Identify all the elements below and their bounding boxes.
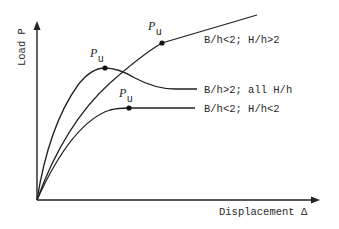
svg-text:u: u xyxy=(98,53,104,64)
svg-text:u: u xyxy=(127,93,133,104)
pu-point-curve-1 xyxy=(159,40,164,45)
pu-label-curve-1: P u xyxy=(147,19,162,37)
pu-point-curve-3 xyxy=(126,105,131,110)
svg-text:P: P xyxy=(147,19,156,33)
svg-text:P: P xyxy=(118,86,127,100)
curve-label-1: B/h<2; H/h>2 xyxy=(204,34,280,46)
y-axis-label: Load P xyxy=(16,28,28,66)
pu-point-curve-2 xyxy=(102,65,107,70)
svg-text:u: u xyxy=(156,26,162,37)
curve-softening xyxy=(37,68,197,200)
pu-label-curve-2: P u xyxy=(89,46,104,64)
load-displacement-diagram: P u P u P u B/h<2; H/h>2 B/h>2; all H/h … xyxy=(0,0,339,229)
pu-label-curve-3: P u xyxy=(118,86,133,104)
y-axis-arrow-icon xyxy=(34,21,41,30)
x-axis-arrow-icon xyxy=(311,197,320,204)
svg-text:P: P xyxy=(89,46,98,60)
curve-plateau xyxy=(37,108,195,200)
curve-label-3: B/h<2; H/h<2 xyxy=(204,103,280,115)
x-axis-label: Displacement Δ xyxy=(219,206,308,218)
curve-label-2: B/h>2; all H/h xyxy=(204,84,292,96)
